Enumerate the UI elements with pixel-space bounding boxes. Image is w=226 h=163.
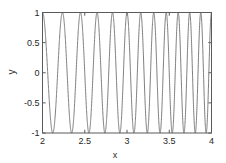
y-tick-label: -1 bbox=[31, 128, 39, 138]
y-tick-label: 1 bbox=[34, 8, 39, 18]
x-axis-label: x bbox=[113, 150, 118, 160]
y-tick-label: 0.5 bbox=[27, 38, 40, 48]
y-axis-label: y bbox=[2, 62, 22, 82]
y-tick-label: 0 bbox=[34, 68, 39, 78]
x-tick-label: 2.5 bbox=[78, 136, 91, 146]
chart-background bbox=[0, 0, 226, 163]
x-tick-label: 3.5 bbox=[163, 136, 176, 146]
x-tick-label: 4 bbox=[209, 136, 214, 146]
x-tick-label: 2 bbox=[40, 136, 45, 146]
y-tick-label: -0.5 bbox=[24, 98, 40, 108]
chart-figure: y x 22.533.54 -1-0.500.51 bbox=[0, 0, 226, 163]
x-tick-label: 3 bbox=[124, 136, 129, 146]
chart-plot-area bbox=[0, 0, 226, 163]
